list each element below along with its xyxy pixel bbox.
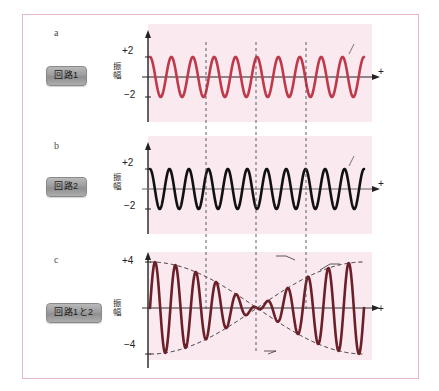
alignment-guides (0, 0, 439, 391)
beat-frequency-figure: a 回路1 振 幅 +2 −2 + 5,000 Hz b 回路2 振 幅 +2 (0, 0, 439, 391)
